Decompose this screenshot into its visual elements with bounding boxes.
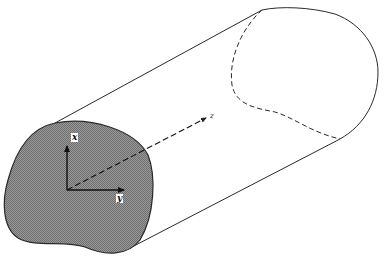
bottom-edge-line [130,139,340,248]
back-section-hidden-outline [231,10,340,139]
x-axis-label: x [71,133,78,142]
bar-diagram [0,0,384,261]
top-edge-line [55,10,262,123]
z-axis-label: z [210,112,214,121]
y-axis-label: y [116,194,123,203]
front-cross-section [4,121,153,253]
back-section-visible-outline [262,8,378,139]
